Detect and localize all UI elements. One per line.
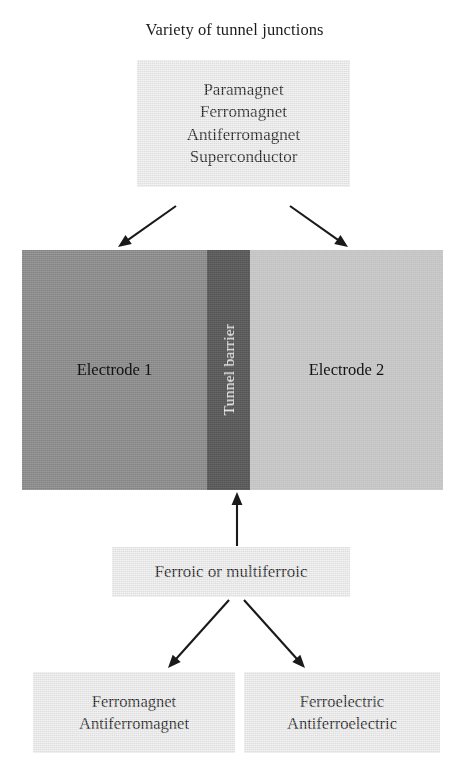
- electric-orders-line-1: Ferroelectric: [300, 691, 384, 713]
- top-box-to-electrode-1-shaft: [127, 206, 176, 241]
- tunnel-barrier-label: Tunnel barrier: [220, 324, 238, 415]
- top-box-to-electrode-1-head: [118, 235, 132, 247]
- box-ferroic-multiferroic: Ferroic or multiferroic: [112, 547, 350, 597]
- electrode-1-label: Electrode 1: [77, 360, 153, 380]
- top-box-to-electrode-2-head: [334, 235, 348, 247]
- ferroic-to-electric-orders-shaft: [244, 600, 298, 660]
- ferroic-line-1: Ferroic or multiferroic: [155, 561, 308, 583]
- magnetic-orders-line-1: Ferromagnet: [92, 691, 176, 713]
- layer-tunnel-barrier: Tunnel barrier: [207, 250, 250, 490]
- box-top-materials: Paramagnet Ferromagnet Antiferromagnet S…: [137, 60, 350, 187]
- diagram-canvas: Variety of tunnel junctions Paramagnet F…: [0, 0, 469, 781]
- top-materials-line-1: Paramagnet: [203, 79, 283, 101]
- layer-electrode-1: Electrode 1: [22, 250, 207, 490]
- top-materials-line-4: Superconductor: [190, 146, 298, 168]
- layer-electrode-2: Electrode 2: [250, 250, 443, 490]
- ferroic-to-magnetic-orders-shaft: [175, 600, 229, 660]
- top-materials-line-3: Antiferromagnet: [187, 124, 300, 146]
- page-title: Variety of tunnel junctions: [0, 20, 469, 40]
- electric-orders-line-2: Antiferroelectric: [287, 713, 397, 735]
- ferroic-to-electric-orders-head: [292, 655, 305, 668]
- box-magnetic-orders: Ferromagnet Antiferromagnet: [33, 672, 235, 753]
- electrode-2-label: Electrode 2: [309, 360, 385, 380]
- box-electric-orders: Ferroelectric Antiferroelectric: [244, 672, 440, 753]
- top-box-to-electrode-2-shaft: [290, 206, 339, 241]
- magnetic-orders-line-2: Antiferromagnet: [79, 713, 189, 735]
- tunnel-junction-stack: Electrode 1 Tunnel barrier Electrode 2: [22, 250, 443, 490]
- top-materials-line-2: Ferromagnet: [200, 101, 287, 123]
- ferroic-to-barrier-head: [232, 492, 243, 505]
- ferroic-to-magnetic-orders-head: [168, 655, 181, 668]
